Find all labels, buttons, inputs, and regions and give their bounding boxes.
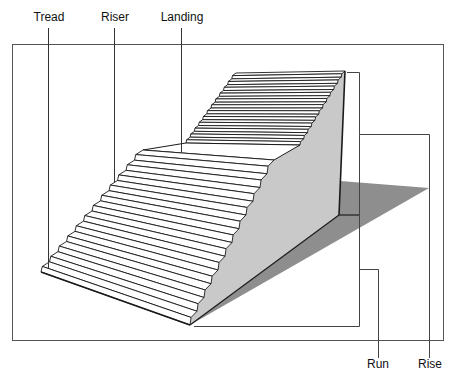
- riser-label: Riser: [101, 10, 129, 24]
- upper-riser-7: [211, 105, 323, 108]
- rise-label: Rise: [418, 357, 442, 371]
- staircase-diagram: [0, 0, 460, 377]
- run-label: Run: [367, 357, 389, 371]
- run-leader: [360, 270, 379, 359]
- tread-label: Tread: [34, 10, 65, 24]
- landing-label: Landing: [161, 10, 204, 24]
